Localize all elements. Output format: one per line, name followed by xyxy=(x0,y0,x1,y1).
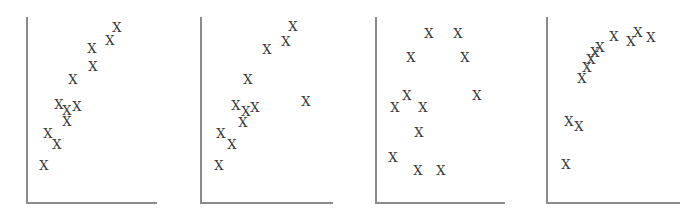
data-point-marker: X xyxy=(413,164,422,177)
data-point-marker: X xyxy=(646,31,655,44)
data-point-marker: X xyxy=(564,115,573,128)
scatter-plot-figure: XXXXXXXXXXXXXXXXXXXXXXXXXXXXXXXXXXXXXXXX… xyxy=(0,0,698,219)
data-point-marker: X xyxy=(418,101,427,114)
data-point-marker: X xyxy=(402,89,411,102)
data-point-marker: X xyxy=(424,27,433,40)
data-point-marker: X xyxy=(281,35,290,48)
data-point-marker: X xyxy=(436,164,445,177)
x-axis-line xyxy=(200,202,333,204)
data-point-marker: X xyxy=(414,126,423,139)
y-axis-line xyxy=(546,17,548,202)
data-point-marker: X xyxy=(472,89,481,102)
data-point-marker: X xyxy=(388,151,397,164)
data-point-marker: X xyxy=(72,100,81,113)
data-point-marker: X xyxy=(238,116,247,129)
data-point-marker: X xyxy=(216,127,225,140)
data-point-marker: X xyxy=(633,26,642,39)
data-point-marker: X xyxy=(288,20,297,33)
data-point-marker: X xyxy=(68,73,77,86)
data-point-marker: X xyxy=(561,158,570,171)
data-point-marker: X xyxy=(301,95,310,108)
data-point-marker: X xyxy=(406,51,415,64)
x-axis-line xyxy=(375,202,505,204)
data-point-marker: X xyxy=(62,115,71,128)
data-point-marker: X xyxy=(390,101,399,114)
data-point-marker: X xyxy=(574,120,583,133)
x-axis-line xyxy=(546,202,680,204)
data-point-marker: X xyxy=(105,34,114,47)
x-axis-line xyxy=(26,202,157,204)
data-point-marker: X xyxy=(214,159,223,172)
data-point-marker: X xyxy=(453,27,462,40)
data-point-marker: X xyxy=(43,127,52,140)
data-point-marker: X xyxy=(231,99,240,112)
data-point-marker: X xyxy=(250,101,259,114)
data-point-marker: X xyxy=(112,21,121,34)
y-axis-line xyxy=(26,17,28,202)
data-point-marker: X xyxy=(243,73,252,86)
data-point-marker: X xyxy=(460,51,469,64)
data-point-marker: X xyxy=(52,138,61,151)
data-point-marker: X xyxy=(595,41,604,54)
y-axis-line xyxy=(200,17,202,202)
data-point-marker: X xyxy=(227,138,236,151)
data-point-marker: X xyxy=(88,60,97,73)
data-point-marker: X xyxy=(87,42,96,55)
data-point-marker: X xyxy=(262,43,271,56)
data-point-marker: X xyxy=(609,30,618,43)
y-axis-line xyxy=(375,17,377,202)
data-point-marker: X xyxy=(39,159,48,172)
